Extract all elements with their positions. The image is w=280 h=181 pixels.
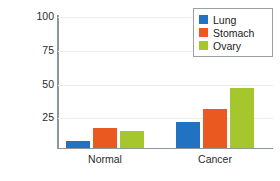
y-tick-25: 25	[22, 112, 54, 123]
bar-normal-ovary	[120, 131, 144, 148]
x-label-normal: Normal	[58, 152, 152, 166]
y-tick-75: 75	[22, 45, 54, 56]
bar-cancer-stomach	[203, 109, 227, 148]
legend-item-ovary: Ovary	[199, 39, 267, 52]
bar-cancer-ovary	[230, 88, 254, 148]
y-axis-tick-labels: 100 75 50 25	[22, 0, 54, 181]
legend-label-ovary: Ovary	[213, 40, 241, 52]
legend-label-lung: Lung	[213, 14, 236, 26]
y-tick-50: 50	[22, 79, 54, 90]
y-tick-100: 100	[22, 11, 54, 22]
legend: Lung Stomach Ovary	[193, 8, 273, 57]
y-axis-title: Cells dividing	[0, 0, 16, 181]
x-label-cancer: Cancer	[168, 152, 262, 166]
bar-normal-stomach	[93, 128, 117, 148]
x-axis-labels: Normal Cancer	[58, 152, 273, 170]
bar-normal-lung	[66, 141, 90, 148]
gridline-50	[58, 85, 273, 86]
legend-label-stomach: Stomach	[213, 27, 254, 39]
bar-cancer-lung	[176, 122, 200, 148]
legend-swatch-lung-icon	[199, 15, 208, 24]
bar-chart: Cells dividing 100 75 50 25 Normal Cance…	[0, 0, 280, 181]
legend-item-stomach: Stomach	[199, 26, 267, 39]
legend-item-lung: Lung	[199, 13, 267, 26]
legend-swatch-stomach-icon	[199, 28, 208, 37]
legend-swatch-ovary-icon	[199, 41, 208, 50]
